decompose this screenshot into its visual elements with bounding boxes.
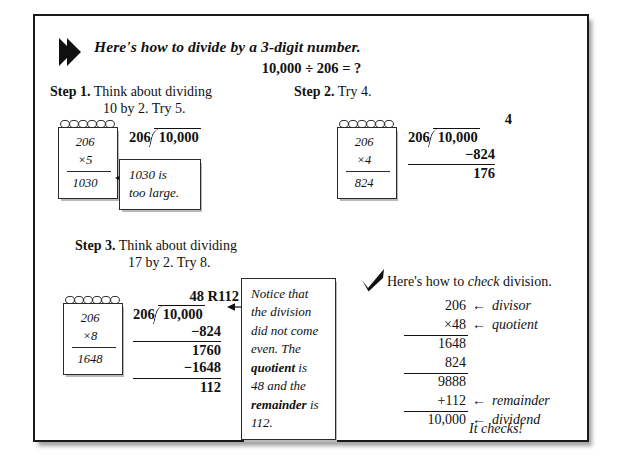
notepad-rule <box>72 347 116 348</box>
check-partial-product-2: 824 <box>404 354 468 374</box>
step-1-callout-line1: 1030 is <box>129 166 192 184</box>
step-1-long-division: 20610,000 <box>129 128 201 146</box>
step-3-text-line1: Think about dividing <box>119 238 237 253</box>
step-3-dividend: 10,000 <box>158 305 205 323</box>
step-2-notepad-body: 206 ×4 824 <box>337 127 397 199</box>
check-partial-product-1: 1648 <box>404 335 468 354</box>
check-value-divisor: 206 <box>404 297 468 316</box>
callout-line-1: Notice that <box>251 285 327 303</box>
callout-line-7-rest: is <box>307 397 319 412</box>
page-frame: Here's how to divide by a 3-digit number… <box>33 14 589 442</box>
check-row: 9888 <box>404 373 550 392</box>
step-1-notepad-body: 206 ×5 1030 <box>58 127 118 199</box>
step-1-divisor: 206 <box>129 129 151 145</box>
step-3-label: Step 3. <box>75 238 115 253</box>
callout-quotient-term: quotient <box>251 360 295 375</box>
step-3-divisor: 206 <box>133 306 155 322</box>
check-arrow: ← <box>468 393 486 408</box>
step-1-multiplicand: 206 <box>59 133 117 151</box>
step-1-dividend: 10,000 <box>154 128 201 146</box>
step-2-long-division: 4 20610,000 −824 176 <box>408 111 518 182</box>
check-row: +112←remainder <box>404 392 550 411</box>
step-1-notepad: 206 ×5 1030 <box>58 119 120 199</box>
step-1-multiplier: ×5 <box>59 151 117 169</box>
check-computation: 206←divisor ×48←quotient 1648 824 9888 +… <box>404 297 550 430</box>
step-2-multiplier: ×4 <box>338 151 396 169</box>
step-2-division-main: 20610,000 <box>408 128 518 146</box>
textbook-page: Here's how to divide by a 3-digit number… <box>0 0 619 473</box>
callout-line-2: the division <box>251 303 327 321</box>
step-2-divisor: 206 <box>408 129 430 145</box>
check-value-quotient: ×48 <box>404 316 468 336</box>
step-3-text-line2: 17 by 2. Try 8. <box>128 255 210 271</box>
page-title: Here's how to divide by a 3-digit number… <box>94 38 361 56</box>
step-2-notepad: 206 ×4 824 <box>337 119 399 199</box>
step-2-label: Step 2. <box>294 84 334 99</box>
step-1-text-line2: 10 by 2. Try 5. <box>103 101 185 117</box>
step-3-multiplicand: 206 <box>64 309 122 327</box>
step-2-product: 824 <box>338 174 396 192</box>
step-1-callout: 1030 is too large. <box>119 159 201 210</box>
step-2-multiplicand: 206 <box>338 133 396 151</box>
main-equation: 10,000 ÷ 206 = ? <box>2 60 619 77</box>
check-row: ×48←quotient <box>404 316 550 335</box>
step-1-callout-line2: too large. <box>129 184 192 202</box>
step-2-remainder-row: 176 <box>408 165 495 182</box>
check-row: 1648 <box>404 335 550 354</box>
step-1-product: 1030 <box>59 174 117 192</box>
check-heading-pre: Here's how to <box>387 274 468 289</box>
step-1-label: Step 1. <box>50 84 90 99</box>
callout-line-5-rest: is <box>295 360 307 375</box>
step-1-text-line1: Think about dividing <box>94 84 212 99</box>
check-product-total: 9888 <box>404 373 468 392</box>
check-value-remainder: +112 <box>404 392 468 412</box>
step-1-heading: Step 1. Think about dividing <box>50 84 212 100</box>
step-3-subtract-row-2: −1648 <box>133 359 221 378</box>
check-row: 824 <box>404 354 550 373</box>
check-label-remainder: remainder <box>486 393 550 408</box>
check-heading-post: division. <box>500 274 552 289</box>
step-3-notepad-body: 206 ×8 1648 <box>63 303 123 375</box>
check-heading-em: check <box>468 274 500 289</box>
step-2-quotient: 4 <box>408 111 518 128</box>
step-3-callout: Notice that the division did not come ev… <box>241 278 336 440</box>
notepad-spiral-icon <box>58 119 120 127</box>
check-arrow: ← <box>468 298 486 313</box>
step-3-product: 1648 <box>64 350 122 368</box>
check-row: 206←divisor <box>404 297 550 316</box>
step-3-partial-row: 1760 <box>133 342 221 359</box>
check-footer: It checks! <box>469 421 523 437</box>
callout-remainder-term: remainder <box>251 397 307 412</box>
notepad-rule <box>67 171 111 172</box>
step-1-division-main: 20610,000 <box>129 128 201 146</box>
callout-line-8: 112. <box>251 414 327 432</box>
step-2-dividend: 10,000 <box>433 128 480 146</box>
callout-line-7: remainder is <box>251 396 327 414</box>
callout-line-5: quotient is <box>251 359 327 377</box>
check-label-divisor: divisor <box>486 298 531 313</box>
step-2-heading: Step 2. Try 4. <box>294 84 371 100</box>
step-2-text-line1: Try 4. <box>338 84 372 99</box>
notepad-spiral-icon <box>337 119 399 127</box>
step-3-subtract-row-1: −824 <box>133 323 221 342</box>
check-value-dividend: 10,000 <box>404 411 468 430</box>
callout-line-3: did not come <box>251 322 327 340</box>
step-3-notepad: 206 ×8 1648 <box>63 295 125 375</box>
check-arrow: ← <box>468 317 486 332</box>
checkmark-icon <box>361 268 387 292</box>
check-label-quotient: quotient <box>486 317 538 332</box>
notepad-spiral-icon <box>63 295 125 303</box>
callout-line-4: even. The <box>251 340 327 358</box>
step-2-subtract-row: −824 <box>408 146 495 165</box>
step-3-remainder-row: 112 <box>133 379 221 396</box>
step-3-multiplier: ×8 <box>64 327 122 345</box>
step-3-heading: Step 3. Think about dividing <box>75 238 237 254</box>
check-heading: Here's how to check division. <box>387 274 552 290</box>
notepad-rule <box>346 171 390 172</box>
callout-line-6: 48 and the <box>251 377 327 395</box>
